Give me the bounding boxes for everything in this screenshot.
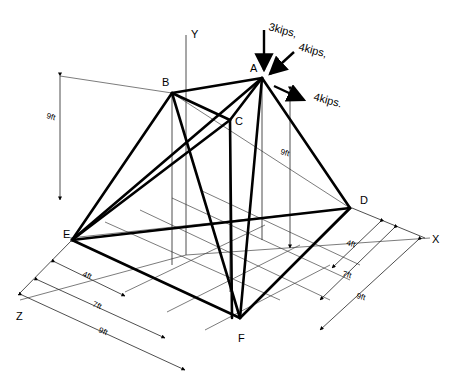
dim-height-left: 9ft [45, 76, 60, 200]
axis-z-label: Z [16, 310, 23, 322]
dim-height-right-label: 9ft [279, 147, 291, 158]
truss-members [72, 78, 350, 318]
dim-x: 4ft 7ft 9ft [320, 208, 425, 330]
load-vertical-label: 3kips, [267, 20, 298, 39]
node-d-label: D [360, 194, 368, 206]
dim-height-left-label: 9ft [45, 111, 57, 122]
dim-x-7ft: 7ft [341, 269, 353, 280]
node-a-label: A [250, 62, 258, 74]
load-horizontal-label: 4kips. [312, 90, 343, 109]
load-inclined-label: 4kips, [297, 40, 328, 59]
node-e-label: E [63, 228, 70, 240]
node-f-label: F [238, 332, 245, 344]
axis-y-label: Y [191, 28, 199, 40]
dim-x-4ft: 4ft [345, 238, 357, 249]
dim-x-9ft: 9ft [355, 291, 367, 302]
dim-z-9ft: 9ft [97, 326, 109, 338]
node-c-label: C [235, 115, 243, 127]
loads: 3kips, 4kips, 4kips. [264, 20, 343, 109]
node-b-label: B [162, 76, 169, 88]
truss-diagram: 9ft 9ft A B C D E F Y X Z 3kips, 4kips, … [0, 0, 457, 384]
dim-z-7ft: 7ft [91, 300, 103, 312]
dim-z: 4ft 7ft 9ft [18, 240, 185, 370]
axis-x-label: X [432, 233, 440, 245]
ground-grid [20, 76, 430, 330]
